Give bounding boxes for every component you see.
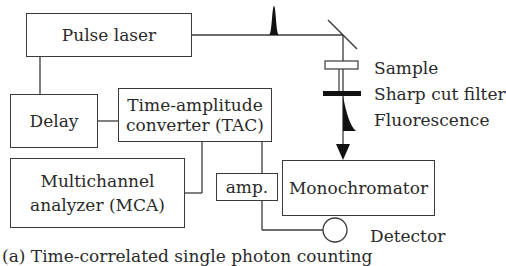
sample-holder [325, 61, 358, 69]
sharp-cut-filter [323, 91, 361, 96]
delay-label: Delay [30, 111, 79, 131]
pulse-laser-label: Pulse laser [62, 25, 157, 45]
monochromator-label: Monochromator [289, 178, 428, 198]
tac-box: Time-amplitude converter (TAC) [118, 88, 272, 142]
laser-pulse-icon [269, 6, 279, 35]
tac-label-line1: Time-amplitude [127, 95, 262, 115]
mca-label-line1: Multichannel [40, 169, 154, 193]
amp-box: amp. [216, 173, 278, 201]
monochromator-box: Monochromator [282, 160, 435, 216]
arrow-head-icon [336, 144, 350, 160]
pulse-laser-box: Pulse laser [26, 13, 192, 57]
mca-label-line2: analyzer (MCA) [30, 193, 165, 217]
fluorescence-label: Fluorescence [374, 110, 489, 130]
fluorescence-decay-icon [343, 96, 356, 131]
filter-label: Sharp cut filter [374, 84, 506, 104]
sample-label: Sample [374, 58, 438, 78]
mca-box: Multichannel analyzer (MCA) [10, 158, 185, 228]
delay-box: Delay [10, 94, 98, 148]
detector-label: Detector [370, 226, 445, 246]
detector-icon [323, 218, 347, 242]
figure-caption: (a) Time-correlated single photon counti… [2, 246, 372, 266]
tac-label-line2: converter (TAC) [126, 115, 264, 135]
amp-label: amp. [226, 177, 269, 197]
